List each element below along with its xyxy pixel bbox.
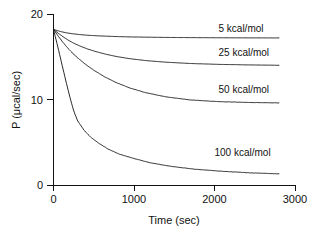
y-tick-label-0: 0 <box>37 179 43 191</box>
curve-label-100-kcal-mol: 100 kcal/mol <box>215 147 271 158</box>
x-tick-label-0: 0 <box>50 193 56 205</box>
chart-figure: 20 10 0 0 1000 2000 3000 Time (sec) P (μ… <box>0 0 327 231</box>
y-axis-title: P (μcal/sec) <box>10 71 22 129</box>
x-tick-label-1000: 1000 <box>122 193 146 205</box>
x-axis-title: Time (sec) <box>148 214 200 226</box>
x-tick-label-2000: 2000 <box>202 193 226 205</box>
y-tick-label-10: 10 <box>31 94 43 106</box>
curve-label-5-kcal-mol: 5 kcal/mol <box>219 23 264 34</box>
curve-labels-group: 5 kcal/mol25 kcal/mol50 kcal/mol100 kcal… <box>215 23 271 158</box>
curve-label-25-kcal-mol: 25 kcal/mol <box>219 47 270 58</box>
x-tick-label-3000: 3000 <box>283 193 307 205</box>
curve-label-50-kcal-mol: 50 kcal/mol <box>219 84 270 95</box>
y-tick-label-20: 20 <box>31 8 43 20</box>
line-chart: 20 10 0 0 1000 2000 3000 Time (sec) P (μ… <box>0 0 327 231</box>
